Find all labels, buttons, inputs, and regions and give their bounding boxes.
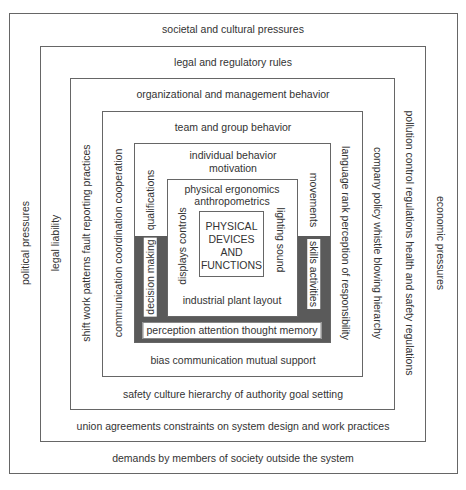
individual-right-upper-label: movements (309, 173, 320, 227)
societal-right-label: economic pressures (436, 196, 447, 290)
physical-ergonomics-top-label-1: physical ergonomics (184, 184, 279, 195)
core-line-1: PHYSICAL (199, 220, 264, 233)
physical-ergonomics-right-label: lighting sound (276, 208, 287, 273)
societal-left-label: political pressures (20, 201, 31, 285)
core-label: PHYSICAL DEVICES AND FUNCTIONS (199, 220, 264, 273)
team-bottom-label: bias communication mutual support (150, 355, 315, 366)
legal-left-label: legal liability (50, 215, 61, 272)
organizational-top-label: organizational and management behavior (136, 89, 329, 100)
legal-right-label: pollution control regulations health and… (405, 110, 416, 375)
individual-left-upper-label: qualifications (145, 170, 156, 231)
societal-bottom-label: demands by members of society outside th… (112, 453, 354, 464)
team-top-label: team and group behavior (175, 122, 292, 133)
societal-top-label: societal and cultural pressures (162, 24, 304, 35)
physical-ergonomics-bottom-label: industrial plant layout (183, 295, 282, 306)
organizational-bottom-label: safety culture hierarchy of authority go… (123, 389, 343, 400)
individual-bottom-label: perception attention thought memory (142, 322, 321, 339)
individual-top-label-1: individual behavior (190, 150, 277, 161)
core-line-3: AND (199, 246, 264, 259)
team-left-label: communication coordination cooperation (113, 149, 124, 338)
individual-left-lower-label: decision making (144, 237, 157, 316)
legal-top-label: legal and regulatory rules (174, 57, 292, 68)
core-line-4: FUNCTIONS (199, 259, 264, 272)
organizational-right-label: company policy whistle blowing hierarchy (373, 147, 384, 339)
individual-right-lower-label: skills activities (308, 239, 321, 309)
physical-ergonomics-left-label: displays controls (177, 207, 188, 285)
organizational-left-label: shift work patterns fault reporting prac… (81, 144, 92, 341)
core-line-2: DEVICES (199, 233, 264, 246)
individual-top-label-2: motivation (209, 163, 257, 174)
legal-bottom-label: union agreements constraints on system d… (77, 421, 390, 432)
team-right-label: language rank perception of responsibili… (341, 146, 352, 340)
physical-ergonomics-top-label-2: anthropometrics (194, 196, 269, 207)
